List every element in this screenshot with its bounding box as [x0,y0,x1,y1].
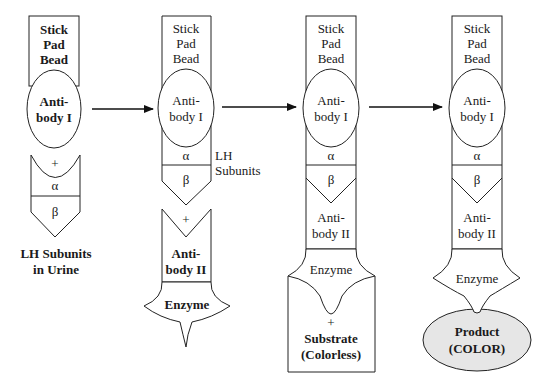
step2-support-line3: Bead [173,51,200,66]
step3-support-line1: Stick [318,21,345,36]
step1-caption-line1: LH Subunits [20,246,91,261]
step2-enzyme-label: Enzyme [165,297,210,312]
step4-product-line1: Product [455,324,500,339]
step2-group: Stick Pad Bead Anti- body I α β LH Subun… [144,16,261,347]
step1-caption-line2: in Urine [33,262,79,277]
step3-support-line2: Pad [321,36,341,51]
step1-support-line1: Stick [40,22,69,37]
lh-assay-diagram: Stick Pad Bead Anti- body I + α β LH Sub… [0,0,541,384]
step2-antibody1-line1: Anti- [172,93,199,108]
step3-support-line3: Bead [318,51,345,66]
step1-support-line2: Pad [43,37,65,52]
step4-antibody1-line1: Anti- [463,93,490,108]
step3-antibody2-line2: body II [312,226,350,241]
step4-beta: β [474,172,481,187]
step2-plus: + [182,212,189,227]
step2-antibody1-ellipse [158,69,214,147]
step4-antibody1-line2: body I [460,109,494,124]
step3-alpha: α [328,148,335,163]
step3-antibody1-ellipse [303,69,359,147]
step2-enzyme-shape [144,282,230,347]
step4-alpha: α [474,148,481,163]
step2-alpha: α [183,148,190,163]
step2-antibody2-line2: body II [166,262,207,277]
step4-antibody1-ellipse [449,69,505,147]
step4-product-line2: (COLOR) [449,341,505,356]
step2-antibody2-line1: Anti- [172,246,201,261]
step1-beta: β [52,204,59,219]
step2-side-label-line2: Subunits [215,163,261,178]
step2-antibody1-line2: body I [169,109,203,124]
step4-support-line1: Stick [464,21,491,36]
step3-group: Stick Pad Bead Anti- body I α β Anti- bo… [288,16,375,372]
step4-enzyme-label: Enzyme [456,271,499,286]
step3-plus: + [327,315,334,330]
step1-antibody1-line1: Anti- [40,94,69,109]
step1-antibody1-line2: body I [36,110,72,125]
step1-support-line3: Bead [40,52,69,67]
step1-group: Stick Pad Bead Anti- body I + α β LH Sub… [20,16,91,277]
step2-support-line2: Pad [176,36,196,51]
step3-antibody2-line1: Anti- [317,210,344,225]
step4-group: Stick Pad Bead Anti- body I α β Anti- bo… [423,16,531,371]
step3-enzyme-label: Enzyme [310,262,353,277]
step1-plus: + [51,156,58,171]
step1-antibody1-ellipse [27,70,81,148]
step3-antibody1-line2: body I [314,109,348,124]
step4-antibody2-line1: Anti- [463,210,490,225]
step1-alpha: α [52,178,59,193]
step4-product-ellipse [423,309,531,371]
step4-support-line3: Bead [464,51,491,66]
step3-substrate-line2: (Colorless) [301,347,361,362]
step3-antibody1-line1: Anti- [317,93,344,108]
step3-substrate-line1: Substrate [304,331,358,346]
step3-beta: β [328,172,335,187]
step2-beta: β [183,172,190,187]
step2-support-line1: Stick [173,21,200,36]
step4-antibody2-line2: body II [458,226,496,241]
step2-side-label-line1: LH [215,148,232,163]
step4-support-line2: Pad [467,36,487,51]
